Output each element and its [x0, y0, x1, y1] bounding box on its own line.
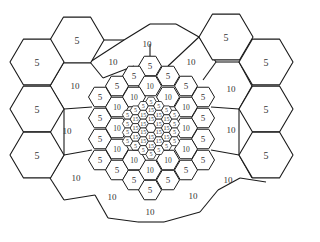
medium-hex-label: 10	[130, 93, 138, 102]
connector-edge	[211, 107, 239, 109]
center-hex-label: 5	[126, 129, 129, 135]
connector-edge	[108, 218, 138, 222]
transition-cell-label: 10	[72, 173, 82, 183]
connector-edge	[164, 212, 200, 222]
center-hex-label: 15	[156, 138, 162, 144]
medium-hex-label: 5	[115, 81, 120, 91]
center-hex-label: 5	[134, 107, 137, 113]
medium-hex-label: 10	[182, 103, 190, 112]
connector-edge	[203, 62, 216, 80]
medium-hex-label: 5	[115, 165, 120, 175]
center-hex-label: 15	[132, 134, 138, 140]
center-hex-label: 15	[140, 138, 146, 144]
outer-hex-label: 5	[264, 104, 269, 115]
center-hex-label: 15	[132, 116, 138, 122]
transition-cell-label: 10	[71, 81, 81, 91]
center-hex-label: 15	[140, 121, 146, 127]
medium-hex-label: 10	[130, 156, 138, 165]
transition-cell-label: 10	[109, 57, 119, 67]
medium-hex-label: 10	[164, 93, 172, 102]
outer-hex-label: 5	[35, 150, 40, 161]
medium-hex-label: 5	[166, 175, 171, 185]
outer-hex-label: 5	[264, 57, 269, 68]
connector-edge	[124, 24, 150, 40]
transition-cell-label: 10	[143, 39, 153, 49]
medium-hex-label: 5	[98, 113, 103, 123]
connector-edge	[64, 195, 95, 200]
connector-edge	[211, 150, 239, 155]
medium-hex-label: 5	[148, 185, 153, 195]
connector-edge	[64, 107, 92, 109]
outer-hex-label: 5	[75, 35, 80, 46]
center-hex-label: 15	[132, 125, 138, 131]
center-hex-label: 5	[142, 147, 145, 153]
transition-cell-label: 10	[224, 175, 234, 185]
connector-edge	[90, 62, 103, 78]
medium-hex-label: 5	[132, 71, 137, 81]
transition-cell-label: 10	[108, 192, 118, 202]
center-hex-label: 15	[148, 107, 154, 113]
medium-hex-label: 5	[184, 165, 189, 175]
medium-hex-label: 10	[146, 166, 154, 175]
medium-hex-label: 5	[166, 71, 171, 81]
center-hex-label: 5	[126, 112, 129, 118]
center-hex-label: 5	[142, 103, 145, 109]
center-hex-label: 5	[173, 121, 176, 127]
center-hex-label: 15	[140, 129, 146, 135]
center-hex-label: 5	[126, 138, 129, 144]
medium-hex-label: 5	[148, 61, 153, 71]
connector-edge	[176, 24, 199, 37]
center-hex-label: 5	[173, 112, 176, 118]
center-hex-label: 5	[157, 103, 160, 109]
center-hex-label: 15	[164, 134, 170, 140]
center-hex-label: 5	[173, 138, 176, 144]
outer-hex-label: 5	[264, 150, 269, 161]
center-hex-label: 15	[156, 112, 162, 118]
transition-cell-label: 10	[227, 84, 237, 94]
medium-hex-label: 10	[182, 145, 190, 154]
medium-hex-label: 5	[98, 134, 103, 144]
medium-hex-label: 5	[98, 155, 103, 165]
medium-hex-label: 10	[113, 103, 121, 112]
medium-hex-label: 5	[98, 92, 103, 102]
center-hex-label: 5	[165, 143, 168, 149]
center-hex-label: 15	[148, 116, 154, 122]
center-hex-label: 5	[165, 107, 168, 113]
center-hex-label: 15	[140, 112, 146, 118]
center-hex-label: 5	[150, 151, 153, 157]
outer-hex-label: 5	[224, 32, 229, 43]
outer-hex-label: 5	[35, 104, 40, 115]
connector-edge	[95, 195, 108, 218]
center-hex-label: 5	[150, 99, 153, 105]
center-hex-label: 15	[164, 116, 170, 122]
connector-edge	[240, 178, 266, 182]
connector-edge	[64, 150, 92, 155]
medium-hex-label: 5	[184, 81, 189, 91]
medium-hex-label: 10	[113, 124, 121, 133]
transition-cell-label: 10	[227, 125, 237, 135]
transition-cell-label: 10	[187, 57, 197, 67]
medium-hex-label: 5	[132, 175, 137, 185]
center-hex-label: 15	[164, 125, 170, 131]
connector-edge	[50, 178, 64, 200]
transition-cell-label: 10	[63, 126, 73, 136]
transition-cell-label: 10	[189, 191, 199, 201]
medium-hex-label: 10	[146, 82, 154, 91]
transition-cell-label: 10	[146, 207, 156, 217]
medium-hex-label: 5	[201, 155, 206, 165]
center-hex-label: 5	[157, 147, 160, 153]
center-hex-label: 15	[148, 143, 154, 149]
center-hex-label: 5	[173, 129, 176, 135]
medium-hex-label: 5	[201, 113, 206, 123]
medium-hex-label: 5	[201, 92, 206, 102]
center-hex-label: 5	[126, 121, 129, 127]
center-hex-label: 15	[148, 134, 154, 140]
medium-hex-label: 5	[201, 134, 206, 144]
center-hex-label: 15	[156, 129, 162, 135]
center-hex-label: 5	[134, 143, 137, 149]
connector-edge	[200, 190, 218, 212]
medium-hex-label: 10	[164, 156, 172, 165]
medium-hex-label: 10	[113, 145, 121, 154]
center-hex-label: 15	[156, 121, 162, 127]
outer-hex-label: 5	[35, 57, 40, 68]
